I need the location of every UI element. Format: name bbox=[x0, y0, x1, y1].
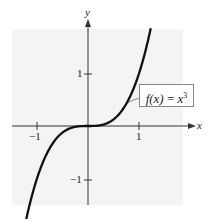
function-label-box: f(x) = x3 bbox=[139, 84, 194, 107]
x-tick-label-1: 1 bbox=[136, 130, 142, 142]
chart-canvas bbox=[0, 0, 214, 219]
x-tick-label-neg1: −1 bbox=[29, 130, 41, 142]
function-lhs: f(x) bbox=[146, 91, 164, 106]
y-axis-label: y bbox=[85, 6, 90, 18]
y-tick-label-1: 1 bbox=[77, 67, 83, 79]
y-tick-label-neg1: −1 bbox=[70, 173, 82, 185]
function-exponent: 3 bbox=[183, 91, 187, 100]
y-axis-arrow-icon bbox=[85, 19, 91, 27]
x-axis-label: x bbox=[197, 119, 202, 131]
x-axis-arrow-icon bbox=[188, 123, 196, 129]
function-eq: = bbox=[167, 91, 174, 106]
